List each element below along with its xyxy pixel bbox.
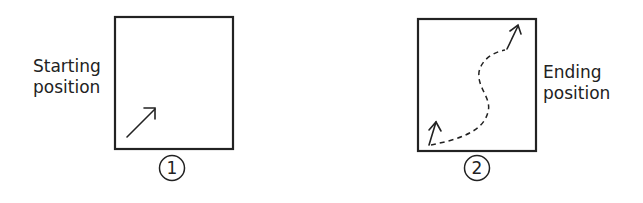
- panel-2-number: 2: [472, 158, 483, 178]
- start-arrow-icon: [127, 108, 155, 137]
- initial-arrow-icon: [429, 122, 441, 145]
- movement-path-dashed: [431, 50, 505, 145]
- final-arrow-icon: [507, 25, 521, 49]
- panel-2-number-badge: 2: [465, 156, 490, 181]
- panel-1: 1: [115, 17, 233, 181]
- panel-2-frame: [418, 19, 536, 151]
- panel-1-number: 1: [167, 158, 178, 178]
- diagram-canvas: 1 2: [0, 0, 643, 203]
- panel-1-number-badge: 1: [160, 156, 185, 181]
- panel-2: 2: [418, 19, 536, 181]
- panel-1-frame: [115, 17, 233, 149]
